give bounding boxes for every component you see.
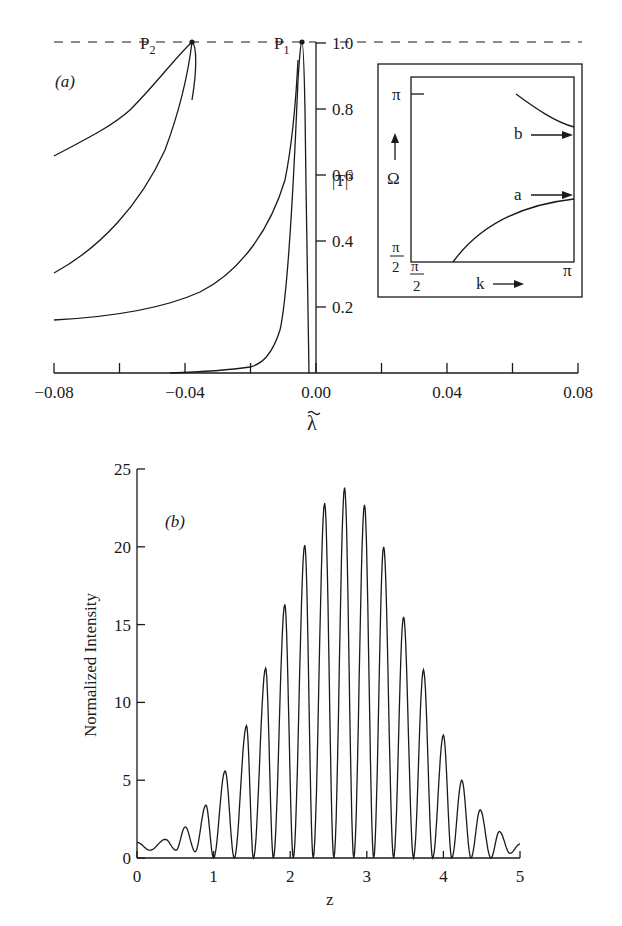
inset-x-tick-pi-half-num: π bbox=[411, 258, 419, 274]
inset-branch-label-a: a bbox=[514, 185, 522, 204]
x-tick-label-b: 2 bbox=[286, 867, 295, 886]
x-tick-label-b: 5 bbox=[516, 867, 525, 886]
annotation-p2: P2 bbox=[140, 34, 155, 57]
y-tick-label-b: 25 bbox=[114, 460, 131, 479]
y-tick-label-a: 1.0 bbox=[332, 34, 353, 53]
x-tick-label-b: 0 bbox=[133, 867, 142, 886]
inset-x-tick-pi: π bbox=[563, 261, 572, 280]
inset-y-tick-pi-half-den: 2 bbox=[392, 259, 400, 275]
inset-omega-arrow-icon bbox=[391, 133, 399, 143]
x-tick-label-b: 4 bbox=[439, 867, 448, 886]
x-tick-label-a: 0.04 bbox=[432, 383, 462, 402]
inset-dispersion: π π 2 π 2 π k Ω a b bbox=[378, 64, 582, 297]
inset-branch-label-b: b bbox=[514, 124, 523, 143]
annotation-p1: P1 bbox=[274, 34, 289, 57]
panel-a: −0.08−0.040.000.040.080.20.40.60.81.0 P1… bbox=[34, 34, 593, 434]
curve-a-1 bbox=[170, 42, 309, 373]
x-tick-label-b: 3 bbox=[363, 867, 372, 886]
point-p2-marker bbox=[189, 39, 194, 44]
curve-a-4 bbox=[54, 42, 196, 156]
inset-y-tick-pi-half-num: π bbox=[392, 239, 400, 255]
x-tick-label-b: 1 bbox=[209, 867, 218, 886]
x-axis-label-b: z bbox=[326, 890, 334, 909]
y-tick-label-a: 0.2 bbox=[332, 298, 353, 317]
x-tick-label-a: −0.04 bbox=[165, 383, 205, 402]
panel-b: 0123450510152025 (b) z Normalized Intens… bbox=[81, 460, 524, 909]
y-axis-label-a: |T|2 bbox=[332, 169, 354, 190]
intensity-curve bbox=[137, 488, 520, 858]
axes-a: −0.08−0.040.000.040.080.20.40.60.81.0 bbox=[34, 34, 593, 402]
inset-y-axis-label: Ω bbox=[387, 169, 400, 188]
figure-canvas: −0.08−0.040.000.040.080.20.40.60.81.0 P1… bbox=[0, 0, 622, 926]
point-p1-marker bbox=[299, 39, 304, 44]
inset-arrow-a-icon bbox=[562, 191, 573, 199]
y-tick-label-b: 10 bbox=[114, 693, 131, 712]
y-tick-label-a: 0.4 bbox=[332, 232, 354, 251]
inset-branch-a-curve bbox=[453, 199, 574, 262]
y-axis-label-b: Normalized Intensity bbox=[81, 593, 100, 737]
inset-x-tick-pi-half-den: 2 bbox=[413, 278, 421, 294]
inset-arrow-b-icon bbox=[562, 131, 573, 139]
y-tick-label-b: 5 bbox=[123, 771, 132, 790]
x-tick-label-a: −0.08 bbox=[34, 383, 73, 402]
inset-plot-frame bbox=[411, 77, 574, 262]
y-tick-label-b: 20 bbox=[114, 538, 131, 557]
curves-a bbox=[54, 42, 309, 373]
inset-x-axis-label: k bbox=[476, 274, 485, 293]
inset-k-arrow-icon bbox=[514, 280, 524, 288]
panel-label-b: (b) bbox=[165, 512, 185, 531]
x-tick-label-a: 0.08 bbox=[563, 383, 593, 402]
y-tick-label-b: 0 bbox=[123, 849, 132, 868]
y-tick-label-a: 0.8 bbox=[332, 100, 353, 119]
inset-y-tick-pi: π bbox=[392, 85, 401, 104]
panel-label-a: (a) bbox=[55, 72, 75, 91]
curve-a-2 bbox=[54, 60, 298, 320]
x-axis-label-a: λ bbox=[307, 412, 317, 434]
inset-branch-b-curve bbox=[516, 94, 574, 127]
y-tick-label-b: 15 bbox=[114, 616, 131, 635]
x-tick-label-a: 0.00 bbox=[301, 383, 331, 402]
